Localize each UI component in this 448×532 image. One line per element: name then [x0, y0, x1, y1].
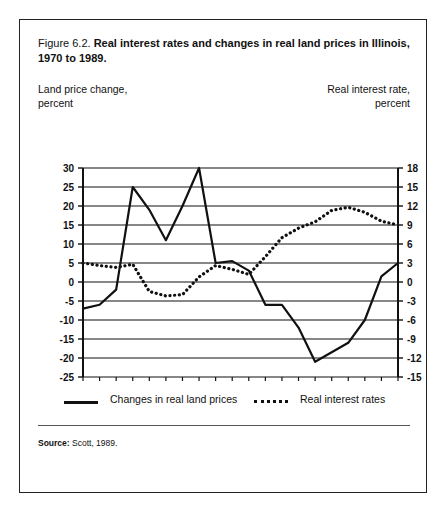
left-axis-label-line2: percent [38, 96, 127, 110]
svg-text:18: 18 [407, 163, 419, 174]
svg-text:-20: -20 [60, 353, 75, 364]
source-note: Source: Scott, 1989. [38, 438, 117, 448]
figure-number: Figure 6.2. [38, 37, 91, 49]
section-divider [38, 425, 410, 426]
chart-legend: Changes in real land prices Real interes… [20, 392, 426, 416]
data-series-layer [83, 168, 398, 362]
legend-swatch-dotted-icon [254, 400, 288, 403]
right-axis-label: Real interest rate, percent [327, 82, 410, 110]
svg-text:5: 5 [68, 258, 74, 269]
legend-label-interest-rates: Real interest rates [300, 393, 385, 405]
svg-text:15: 15 [407, 182, 419, 193]
x-axis-ticks: 19701975198019851989 [72, 377, 410, 381]
legend-swatch-solid-icon [64, 401, 98, 404]
figure-caption: Figure 6.2. Real interest rates and chan… [38, 36, 410, 66]
svg-text:10: 10 [63, 239, 75, 250]
source-label: Source: [38, 438, 70, 448]
right-axis-label-line1: Real interest rate, [327, 82, 410, 96]
line-chart-svg: -25-20-15-10-5051015202530 -15-12-9-6-30… [20, 123, 426, 381]
svg-text:-9: -9 [407, 334, 416, 345]
svg-text:6: 6 [407, 239, 413, 250]
plot-area: -25-20-15-10-5051015202530 -15-12-9-6-30… [20, 123, 426, 381]
legend-label-land-prices: Changes in real land prices [110, 393, 237, 405]
svg-text:-6: -6 [407, 315, 416, 326]
svg-text:20: 20 [63, 201, 75, 212]
svg-text:-10: -10 [60, 315, 75, 326]
svg-text:-3: -3 [407, 296, 416, 307]
svg-text:9: 9 [407, 220, 413, 231]
svg-text:15: 15 [63, 220, 75, 231]
left-axis-label-line1: Land price change, [38, 82, 127, 96]
source-text: Scott, 1989. [72, 438, 117, 448]
series-interest-rates [83, 207, 398, 296]
svg-text:0: 0 [407, 277, 413, 288]
right-axis-ticks: -15-12-9-6-30369121518 [398, 163, 422, 381]
left-axis-label: Land price change, percent [38, 82, 127, 110]
svg-text:0: 0 [68, 277, 74, 288]
svg-text:-5: -5 [65, 296, 74, 307]
svg-text:-12: -12 [407, 353, 422, 364]
svg-text:12: 12 [407, 201, 419, 212]
svg-text:30: 30 [63, 163, 75, 174]
svg-text:25: 25 [63, 182, 75, 193]
left-axis-ticks: -25-20-15-10-5051015202530 [60, 163, 83, 381]
right-axis-label-line2: percent [327, 96, 410, 110]
svg-text:-25: -25 [60, 372, 75, 381]
figure-frame: Figure 6.2. Real interest rates and chan… [19, 19, 427, 493]
figure-title: Real interest rates and changes in real … [38, 37, 410, 64]
svg-text:3: 3 [407, 258, 413, 269]
svg-text:-15: -15 [407, 372, 422, 381]
svg-text:-15: -15 [60, 334, 75, 345]
